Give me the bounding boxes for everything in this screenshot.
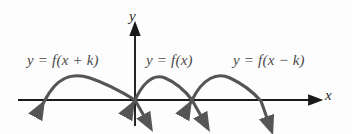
function-translation-diagram: y = f(x + k) y = f(x) y = f(x − k) y x [0,0,352,134]
equation-label-right: y = f(x − k) [233,52,305,69]
equation-label-left: y = f(x + k) [27,52,99,69]
curve-f-x [126,77,201,116]
x-axis-label: x [325,87,332,104]
equation-label-middle: y = f(x) [146,52,193,69]
y-axis-label: y [129,8,136,25]
curve-f-x-minus-k [183,76,267,118]
